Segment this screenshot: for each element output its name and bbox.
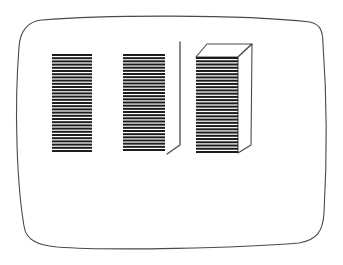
stripe-bar <box>52 118 92 120</box>
stripe-bar <box>123 105 165 107</box>
stripe-bar <box>123 83 165 85</box>
stripe-bar <box>123 121 165 123</box>
stripe-bar <box>123 140 165 142</box>
stripe-bar <box>52 140 92 142</box>
stripe-bar <box>123 146 165 148</box>
stripe-bar <box>123 95 165 97</box>
stripe-bar <box>52 137 92 139</box>
stripe-bar <box>52 147 92 149</box>
stripe-bar <box>123 133 165 135</box>
striped-box-3d <box>196 44 252 153</box>
stripe-bar <box>123 111 165 113</box>
stripe-bar <box>196 141 238 143</box>
stripe-bar <box>52 83 92 85</box>
stripe-bar <box>196 73 238 75</box>
stripe-bar <box>52 102 92 104</box>
stripe-bar <box>196 106 238 108</box>
stripe-bar <box>123 143 165 145</box>
stripe-bar <box>196 102 238 104</box>
stripe-bar <box>196 67 238 69</box>
stripe-bar <box>52 112 92 114</box>
stripe-bar <box>196 93 238 95</box>
stripe-bar <box>123 70 165 72</box>
stripe-bar <box>123 114 165 116</box>
stripe-bar <box>196 145 238 147</box>
stripe-bar <box>196 83 238 85</box>
stripe-bar <box>52 64 92 66</box>
stripe-bar <box>52 128 92 130</box>
stripe-bar <box>52 115 92 117</box>
stripe-bar <box>52 105 92 107</box>
stripe-bar <box>123 98 165 100</box>
stripe-bar <box>196 76 238 78</box>
stripe-bar <box>196 63 238 65</box>
stripe-bar <box>52 67 92 69</box>
stripe-bar <box>196 135 238 137</box>
stripe-bar <box>52 86 92 88</box>
stripe-bar <box>196 115 238 117</box>
stripe-bar <box>123 130 165 132</box>
stripe-bar <box>52 54 92 56</box>
stripe-bar <box>196 151 238 153</box>
stripe-bar <box>196 60 238 62</box>
stripe-bar <box>52 99 92 101</box>
stripe-bar <box>196 80 238 82</box>
stripe-bar <box>52 70 92 72</box>
stripe-bar <box>52 92 92 94</box>
stripe-bar <box>196 70 238 72</box>
stripe-bar <box>123 67 165 69</box>
stripe-bar <box>196 148 238 150</box>
stripe-bar <box>123 86 165 88</box>
striped-panel-flat-2 <box>123 54 165 151</box>
stripe-bar <box>52 144 92 146</box>
stripe-bar <box>196 132 238 134</box>
stripe-bar <box>123 117 165 119</box>
stripe-bar <box>123 127 165 129</box>
box-front-face-stripes <box>196 57 238 153</box>
stripe-bar <box>196 112 238 114</box>
stripe-bar <box>123 92 165 94</box>
stripe-bar <box>196 89 238 91</box>
stripe-bar <box>123 108 165 110</box>
crt-screen-illustration <box>0 0 343 265</box>
stripe-bar <box>52 134 92 136</box>
stripe-bar <box>196 128 238 130</box>
striped-panel-flat-1 <box>52 54 92 152</box>
stripe-bar <box>123 124 165 126</box>
stripe-bar <box>196 57 238 59</box>
stripe-bar <box>52 89 92 91</box>
stripe-bar <box>196 86 238 88</box>
stripe-bar <box>123 136 165 138</box>
stripe-bar <box>123 57 165 59</box>
stripe-bar <box>196 119 238 121</box>
stripe-bar <box>52 76 92 78</box>
stripe-bar <box>52 60 92 62</box>
stripe-bar <box>196 122 238 124</box>
stripe-bar <box>196 138 238 140</box>
stripe-bar <box>123 79 165 81</box>
stripe-bar <box>52 131 92 133</box>
stripe-bar <box>196 109 238 111</box>
stripe-bar <box>123 76 165 78</box>
stripe-bar <box>196 99 238 101</box>
stripe-bar <box>52 57 92 59</box>
stripe-bar <box>123 60 165 62</box>
stripe-bar <box>196 125 238 127</box>
stripe-bar <box>52 80 92 82</box>
stripe-bar <box>123 89 165 91</box>
stripe-bar <box>52 150 92 152</box>
stripe-bar <box>52 96 92 98</box>
stripe-bar <box>123 149 165 151</box>
stripe-bar <box>52 73 92 75</box>
stripe-bar <box>52 108 92 110</box>
depth-edge-line <box>167 42 180 154</box>
stripe-bar <box>196 96 238 98</box>
stripe-bar <box>123 54 165 56</box>
stripe-bar <box>123 102 165 104</box>
stripe-bar <box>123 64 165 66</box>
figure-stage <box>0 0 343 265</box>
stripe-bar <box>52 121 92 123</box>
box-right-face <box>238 44 252 153</box>
stripe-bar <box>52 124 92 126</box>
stripe-bar <box>123 73 165 75</box>
